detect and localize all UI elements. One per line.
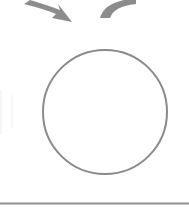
central-circle <box>43 50 167 174</box>
diagram-canvas <box>0 0 189 207</box>
outgoing-curved-arrow-icon <box>100 0 136 18</box>
incoming-arrow-icon <box>24 0 72 22</box>
